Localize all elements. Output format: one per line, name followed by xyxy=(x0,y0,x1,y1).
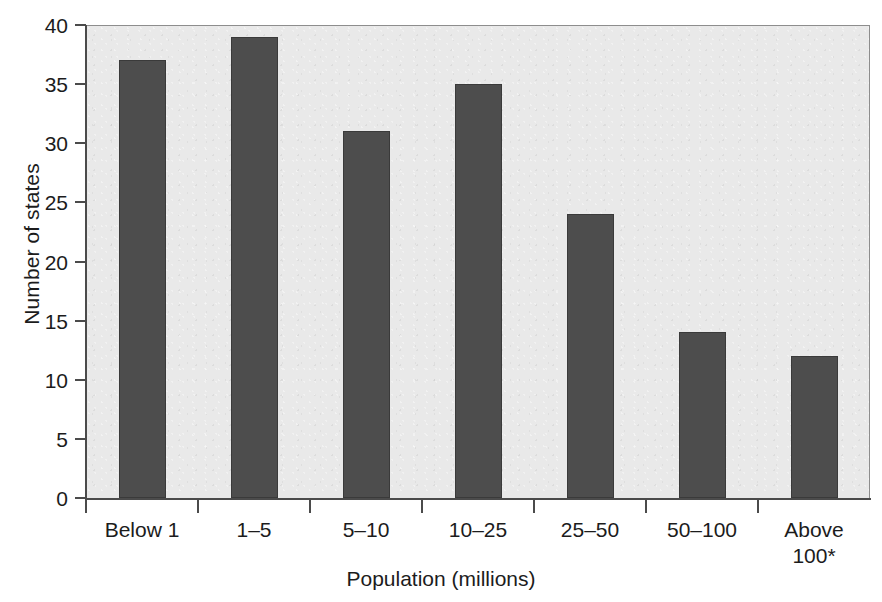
x-tick-mark xyxy=(197,500,199,513)
y-tick-mark xyxy=(75,379,86,381)
y-tick-mark xyxy=(75,497,86,499)
y-tick-label: 25 xyxy=(45,191,68,215)
y-tick-label: 30 xyxy=(45,132,68,156)
bar xyxy=(119,60,166,498)
bar xyxy=(343,131,390,498)
y-tick-mark xyxy=(75,201,86,203)
bar-chart: Number of states 0510152025303540 Below … xyxy=(0,0,882,602)
x-tick-mark xyxy=(645,500,647,513)
x-tick-mark xyxy=(533,500,535,513)
bar xyxy=(231,37,278,498)
x-tick-mark xyxy=(757,500,759,513)
y-tick-label: 35 xyxy=(45,73,68,97)
x-axis-title: Population (millions) xyxy=(0,567,882,591)
bars-layer xyxy=(86,25,870,498)
y-tick-mark xyxy=(75,24,86,26)
bar xyxy=(567,214,614,498)
x-tick-mark xyxy=(85,500,87,513)
x-tick-mark xyxy=(309,500,311,513)
x-tick-label-line2: 100* xyxy=(744,543,882,569)
x-tick-mark xyxy=(421,500,423,513)
bar xyxy=(791,356,838,498)
y-tick-mark xyxy=(75,320,86,322)
y-tick-label: 40 xyxy=(45,14,68,38)
y-tick-mark xyxy=(75,142,86,144)
x-tick-label: Above100* xyxy=(744,517,882,569)
y-tick-label: 15 xyxy=(45,310,68,334)
x-tick-label-line1: Above xyxy=(744,517,882,543)
bar xyxy=(679,332,726,498)
y-tick-label: 5 xyxy=(56,428,68,452)
y-tick-label: 0 xyxy=(56,487,68,511)
y-tick-label: 10 xyxy=(45,369,68,393)
y-tick-label: 20 xyxy=(45,251,68,275)
y-tick-mark xyxy=(75,261,86,263)
y-tick-mark xyxy=(75,83,86,85)
y-tick-mark xyxy=(75,438,86,440)
bar xyxy=(455,84,502,498)
y-axis-title: Number of states xyxy=(20,94,44,394)
x-axis-line xyxy=(85,498,871,500)
